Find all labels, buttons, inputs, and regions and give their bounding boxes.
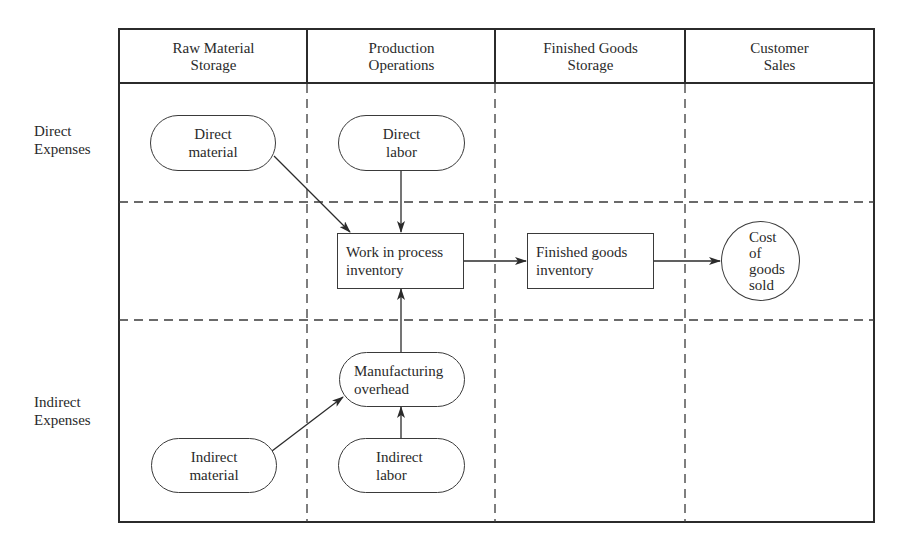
column-header-line: Storage (543, 57, 638, 74)
node-label: labor (383, 143, 420, 161)
column-header-line: Raw Material (172, 40, 254, 57)
node-direct-material: Directmaterial (150, 115, 276, 171)
node-label: overhead (354, 380, 443, 398)
node-indirect-labor: Indirectlabor (338, 438, 465, 493)
node-cost-of-goods-sold: Cost of goods sold (721, 221, 800, 301)
node-label: Cost (749, 229, 785, 245)
column-header-production-operations: ProductionOperations (308, 30, 495, 83)
column-header-line: Sales (750, 57, 808, 74)
column-header-finished-goods-storage: Finished GoodsStorage (496, 30, 685, 83)
node-label: goods (749, 261, 785, 277)
column-header-line: Finished Goods (543, 40, 638, 57)
node-work-in-process-inventory: Work in processinventory (337, 233, 464, 289)
row-label-direct-expenses: Direct Expenses (34, 122, 91, 158)
node-label: Indirect (376, 448, 423, 466)
node-label: Direct (188, 125, 237, 143)
node-label: of (749, 245, 785, 261)
column-header-line: Storage (172, 57, 254, 74)
column-header-raw-material-storage: Raw MaterialStorage (120, 30, 307, 83)
row-label-line: Indirect (34, 393, 91, 411)
node-label: Indirect (189, 448, 238, 466)
row-label-indirect-expenses: Indirect Expenses (34, 393, 91, 429)
node-label: Work in process (346, 243, 443, 261)
node-direct-labor: Directlabor (338, 115, 465, 171)
node-label: Finished goods (536, 243, 627, 261)
node-label: inventory (536, 261, 627, 279)
column-header-customer-sales: CustomerSales (686, 30, 873, 83)
node-finished-goods-inventory: Finished goodsinventory (527, 233, 654, 289)
row-label-line: Direct (34, 122, 91, 140)
column-header-line: Production (369, 40, 435, 57)
row-label-line: Expenses (34, 411, 91, 429)
node-label: Manufacturing (354, 362, 443, 380)
row-label-line: Expenses (34, 140, 91, 158)
node-label: material (188, 143, 237, 161)
node-label: labor (376, 466, 423, 484)
node-label: inventory (346, 261, 443, 279)
node-manufacturing-overhead: Manufacturingoverhead (339, 352, 465, 407)
node-indirect-material: Indirectmaterial (151, 438, 277, 493)
node-label: material (189, 466, 238, 484)
node-label: sold (749, 277, 785, 293)
column-header-line: Operations (369, 57, 435, 74)
node-label: Direct (383, 125, 420, 143)
column-header-line: Customer (750, 40, 808, 57)
